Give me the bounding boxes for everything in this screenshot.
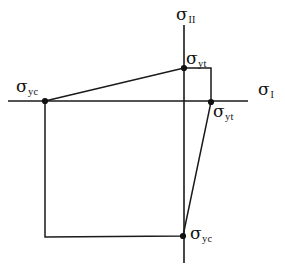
node-label-sigma-yt-top: σyt xyxy=(186,50,207,70)
node-dot-sigma-yc-left xyxy=(42,98,48,104)
sigma-glyph: σ xyxy=(186,48,198,68)
node-subscript-yc: yc xyxy=(202,233,213,244)
axis-subscript-II: II xyxy=(188,14,196,25)
sigma-glyph: σ xyxy=(16,76,28,96)
node-label-sigma-yt-right: σyt xyxy=(213,103,234,123)
sigma-glyph: σ xyxy=(190,223,202,243)
sigma-glyph: σ xyxy=(176,4,188,24)
diagram-canvas xyxy=(0,0,285,279)
axis-label-sigma-I: σI xyxy=(258,81,274,100)
node-label-sigma-yc-left: σyc xyxy=(16,78,38,98)
node-subscript-yt: yt xyxy=(225,111,234,122)
node-dot-sigma-yc-bottom xyxy=(180,233,186,239)
node-label-sigma-yc-bottom: σyc xyxy=(190,225,212,245)
node-subscript-yt: yt xyxy=(198,58,207,69)
failure-envelope-figure: σII σI σyc σyt σyt σyc xyxy=(0,0,285,279)
sigma-glyph: σ xyxy=(213,101,225,121)
sigma-glyph: σ xyxy=(258,79,270,99)
failure-envelope-polygon xyxy=(45,68,211,237)
axis-label-sigma-II: σII xyxy=(176,6,196,25)
node-subscript-yc: yc xyxy=(28,86,39,97)
axis-subscript-I: I xyxy=(270,89,274,100)
